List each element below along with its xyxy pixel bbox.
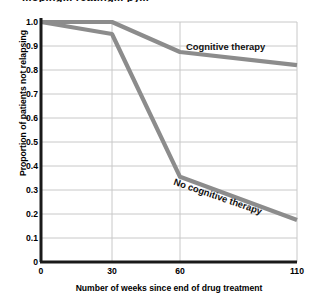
plot-area — [0, 0, 314, 300]
x-tick-label: 60 — [175, 266, 185, 276]
x-tick-label: 110 — [290, 266, 304, 276]
line-chart: ...oping... reating... py... Proportion … — [0, 0, 314, 300]
x-tick-label: 30 — [107, 266, 117, 276]
series-label-cognitive-therapy: Cognitive therapy — [186, 41, 265, 52]
x-axis-label: Number of weeks since end of drug treatm… — [41, 283, 297, 293]
x-tick-label: 0 — [39, 266, 44, 276]
gridlines — [41, 22, 297, 262]
axes — [40, 18, 297, 262]
